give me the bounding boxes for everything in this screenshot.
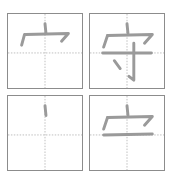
character-stroke-icon: [8, 14, 82, 88]
stroke-cell-3: [7, 95, 83, 171]
character-stroke-icon: [90, 14, 164, 88]
stroke-cell-1: [7, 13, 83, 89]
character-stroke-icon: [90, 96, 164, 170]
stroke-cell-2: [89, 13, 165, 89]
character-stroke-icon: [8, 96, 82, 170]
stroke-cell-4: [89, 95, 165, 171]
